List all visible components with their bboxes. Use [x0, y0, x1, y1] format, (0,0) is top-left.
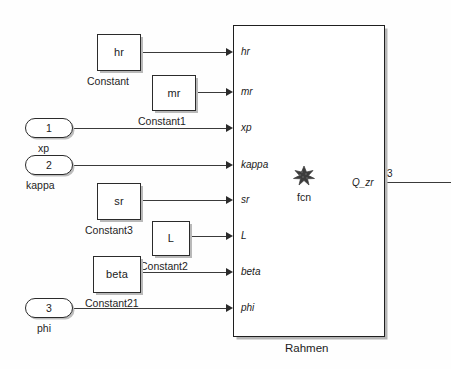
inport-block-phi[interactable]: 3 [25, 298, 73, 318]
constant-value-beta: beta [106, 269, 128, 280]
subsystem-caption-rahmen: Rahmen [285, 343, 328, 355]
subsystem-port-label-phi: phi [241, 303, 254, 313]
port-arrow-sr [226, 196, 233, 204]
fcn-scribble-icon [292, 165, 316, 191]
inport-block-xp[interactable]: 1 [25, 118, 73, 138]
constant-value-sr: sr [114, 196, 124, 207]
port-arrow-hr [226, 48, 233, 56]
inport-caption-xp: xp [38, 143, 49, 154]
inport-caption-kappa: kappa [26, 180, 55, 191]
constant-value-L: L [168, 233, 174, 244]
wire-output-Q_zr [385, 182, 451, 183]
inport-block-kappa[interactable]: 2 [25, 155, 73, 175]
port-arrow-xp [226, 124, 233, 132]
subsystem-port-label-kappa: kappa [241, 160, 268, 170]
constant-block-beta[interactable]: beta [93, 256, 141, 293]
inport-number-kappa: 2 [46, 160, 52, 171]
subsystem-port-label-q-zr: Q_zr [352, 178, 374, 188]
constant-block-sr[interactable]: sr [97, 183, 141, 220]
subsystem-port-label-mr: mr [241, 87, 253, 97]
constant-value-hr: hr [114, 47, 124, 58]
fcn-label: fcn [297, 192, 311, 203]
constant-block-L[interactable]: L [152, 221, 190, 256]
wire-hr [141, 52, 227, 53]
wire-L [190, 236, 227, 237]
wire-xp [73, 128, 227, 129]
wire-mr [196, 92, 227, 93]
constant-block-mr[interactable]: mr [152, 75, 196, 111]
port-arrow-phi [226, 304, 233, 312]
inport-number-phi: 3 [46, 303, 52, 314]
constant-caption-hr: Constant [87, 76, 129, 87]
signal-width-label: 3 [387, 169, 393, 179]
port-arrow-mr [226, 88, 233, 96]
constant-caption-mr: Constant1 [138, 116, 186, 127]
port-arrow-L [226, 232, 233, 240]
port-arrow-kappa [226, 161, 233, 169]
wire-kappa [73, 165, 227, 166]
inport-caption-phi: phi [37, 323, 51, 334]
inport-number-xp: 1 [46, 123, 52, 134]
constant-caption-L: Constant2 [140, 261, 188, 272]
subsystem-port-label-beta: beta [241, 267, 260, 277]
subsystem-port-label-xp: xp [241, 123, 252, 133]
constant-value-mr: mr [167, 88, 180, 99]
subsystem-port-label-sr: sr [241, 195, 249, 205]
wire-sr [141, 200, 227, 201]
subsystem-port-label-hr: hr [241, 47, 250, 57]
subsystem-port-label-L: L [241, 231, 247, 241]
fcn-icon-group: fcn [292, 165, 316, 203]
constant-caption-beta: Constant21 [85, 298, 139, 309]
constant-caption-sr: Constant3 [85, 225, 133, 236]
port-arrow-beta [226, 268, 233, 276]
simulink-diagram-canvas: hr mr xp kappa sr L beta phi Q_zr 3 fcn [0, 0, 451, 369]
wire-beta [141, 272, 227, 273]
constant-block-hr[interactable]: hr [97, 34, 141, 71]
